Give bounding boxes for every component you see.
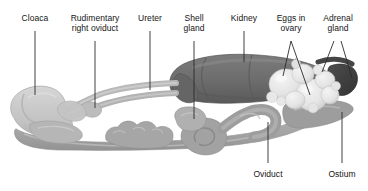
label-rudimentary-right-oviduct: Rudimentary right oviduct: [71, 14, 120, 33]
label-shell-gland: Shell gland: [183, 14, 204, 33]
anatomy-figure: CloacaRudimentary right oviductUreterShe…: [0, 0, 368, 191]
label-kidney: Kidney: [231, 14, 257, 24]
label-cloaca: Cloaca: [22, 14, 49, 24]
label-eggs-in-ovary: Eggs in ovary: [277, 14, 306, 33]
label-oviduct: Oviduct: [253, 170, 282, 180]
label-adrenal-gland: Adrenal gland: [323, 14, 353, 33]
label-ureter: Ureter: [138, 14, 162, 24]
label-ostium: Ostium: [328, 170, 355, 180]
shell-gland-shape: [175, 107, 206, 131]
